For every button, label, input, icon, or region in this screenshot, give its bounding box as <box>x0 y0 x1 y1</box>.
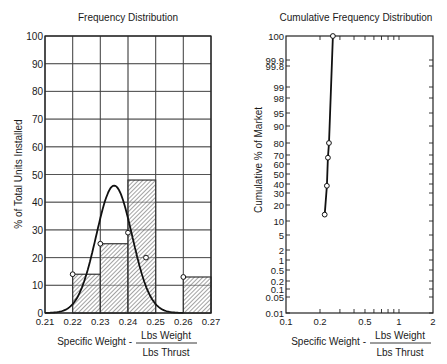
left-x-label-denominator: Lbs Thrust <box>142 347 189 358</box>
left-chart-title: Frequency Distribution <box>78 12 178 23</box>
data-point <box>326 155 331 160</box>
y-tick-label: 50 <box>32 170 44 181</box>
histogram-bar <box>73 274 101 313</box>
x-tick-label: 2 <box>430 316 435 327</box>
x-tick-label: 0.27 <box>202 316 221 327</box>
histogram-bar <box>128 180 156 313</box>
right-chart-title: Cumulative Frequency Distribution <box>280 12 433 23</box>
y-tick-label: 10 <box>273 216 284 227</box>
right-x-tick-labels: 0.10.20.512 <box>279 316 435 327</box>
right-x-label-denominator: Lbs Thrust <box>376 347 423 358</box>
y-tick-label: 40 <box>32 197 44 208</box>
x-tick-label: 0.26 <box>174 316 193 327</box>
charts-canvas: Frequency Distribution 01020304050607080… <box>0 0 447 364</box>
data-point <box>327 141 332 146</box>
data-point <box>98 241 103 246</box>
y-tick-label: 0.5 <box>271 265 284 276</box>
y-tick-label: 80 <box>273 138 284 149</box>
y-tick-label: 70 <box>32 114 44 125</box>
y-tick-label: 10 <box>32 280 44 291</box>
histogram-bar <box>100 244 128 313</box>
x-tick-label: 0.21 <box>36 316 55 327</box>
data-point <box>144 255 149 260</box>
y-tick-label: 99.9 <box>266 55 285 66</box>
x-tick-label: 0.2 <box>313 316 326 327</box>
data-point <box>181 275 186 280</box>
y-tick-label: 20 <box>32 253 44 264</box>
x-tick-label: 1 <box>396 316 401 327</box>
y-tick-label: 1 <box>279 255 284 266</box>
left-y-tick-labels: 0102030405060708090100 <box>26 31 43 319</box>
left-y-axis-label: % of Total Units Installed <box>13 119 24 228</box>
data-point <box>322 212 327 217</box>
y-tick-label: 30 <box>32 225 44 236</box>
y-tick-label: 20 <box>273 200 284 211</box>
y-tick-label: 5 <box>279 230 284 241</box>
data-point <box>70 272 75 277</box>
data-point <box>324 183 329 188</box>
y-tick-label: 40 <box>273 179 284 190</box>
right-y-axis-label: Cumulative % of Market <box>253 107 264 213</box>
frequency-distribution-chart: Frequency Distribution 01020304050607080… <box>13 12 220 358</box>
x-tick-label: 0.24 <box>119 316 138 327</box>
x-tick-label: 0.1 <box>279 316 292 327</box>
y-tick-label: 80 <box>32 86 44 97</box>
figure: Frequency Distribution 01020304050607080… <box>0 0 447 364</box>
y-tick-label: 99 <box>273 82 284 93</box>
right-plot-frame <box>286 36 433 313</box>
y-tick-label: 98 <box>273 93 284 104</box>
y-tick-label: 50 <box>273 169 284 180</box>
left-grid-overlay <box>45 36 211 313</box>
x-tick-label: 0.25 <box>146 316 165 327</box>
data-point <box>330 34 335 39</box>
y-tick-label: 95 <box>273 108 284 119</box>
cumulative-frequency-chart: Cumulative Frequency Distribution 0.010.… <box>253 12 436 358</box>
y-tick-label: 60 <box>32 142 44 153</box>
y-tick-label: 0.2 <box>271 276 284 287</box>
x-tick-label: 0.22 <box>63 316 82 327</box>
x-tick-label: 0.5 <box>358 316 371 327</box>
x-tick-label: 0.23 <box>91 316 110 327</box>
right-x-label-numerator: Lbs Weight <box>375 330 425 341</box>
y-tick-label: 100 <box>268 31 284 42</box>
left-x-tick-labels: 0.210.220.230.240.250.260.27 <box>36 316 221 327</box>
y-tick-label: 70 <box>273 150 284 161</box>
y-tick-label: 2 <box>279 245 284 256</box>
right-y-tick-labels: 0.010.050.10.20.512510203040506070809095… <box>266 31 285 319</box>
data-point <box>126 230 131 235</box>
y-tick-label: 100 <box>26 31 43 42</box>
right-ticks <box>286 36 433 313</box>
y-tick-label: 90 <box>32 59 44 70</box>
left-x-axis-label: Specific Weight - <box>57 336 132 347</box>
left-x-label-numerator: Lbs Weight <box>141 330 191 341</box>
right-x-axis-label: Specific Weight - <box>291 336 366 347</box>
y-tick-label: 90 <box>273 121 284 132</box>
histogram-bar <box>183 277 211 313</box>
